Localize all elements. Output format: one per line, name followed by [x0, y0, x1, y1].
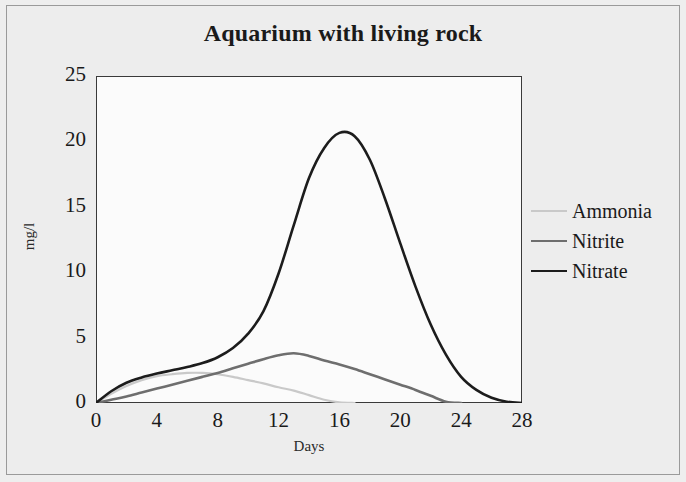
x-tick-label: 4 [135, 408, 179, 433]
x-tick-label: 0 [74, 408, 118, 433]
legend-label: Nitrate [572, 260, 628, 283]
legend-swatch-ammonia [531, 210, 567, 212]
x-tick-label: 12 [257, 408, 301, 433]
x-tick-label: 20 [378, 408, 422, 433]
x-tick-label: 8 [196, 408, 240, 433]
x-axis-title: Days [96, 438, 522, 455]
x-tick-label: 28 [500, 408, 544, 433]
series-line-nitrate [96, 132, 522, 403]
y-tick-label: 10 [46, 258, 86, 283]
legend-label: Ammonia [572, 200, 652, 223]
chart-title: Aquarium with living rock [0, 20, 686, 47]
chart-series-layer [96, 76, 522, 403]
legend-label: Nitrite [572, 230, 624, 253]
y-tick-label: 20 [46, 127, 86, 152]
y-tick-label: 5 [46, 324, 86, 349]
x-axis-tick-labels: 0481216202428 [0, 408, 686, 438]
legend-swatch-nitrite [531, 240, 567, 242]
figure-canvas: Aquarium with living rock 0510152025 048… [0, 0, 686, 482]
legend-swatch-nitrate [531, 270, 567, 272]
chart-legend: AmmoniaNitriteNitrate [531, 196, 681, 286]
y-tick-label: 25 [46, 62, 86, 87]
legend-item-ammonia: Ammonia [531, 196, 681, 226]
y-tick-label: 15 [46, 193, 86, 218]
legend-item-nitrate: Nitrate [531, 256, 681, 286]
x-tick-label: 16 [317, 408, 361, 433]
legend-item-nitrite: Nitrite [531, 226, 681, 256]
series-line-ammonia [96, 373, 355, 403]
x-tick-label: 24 [439, 408, 483, 433]
y-axis-title: mg/l [21, 202, 38, 272]
